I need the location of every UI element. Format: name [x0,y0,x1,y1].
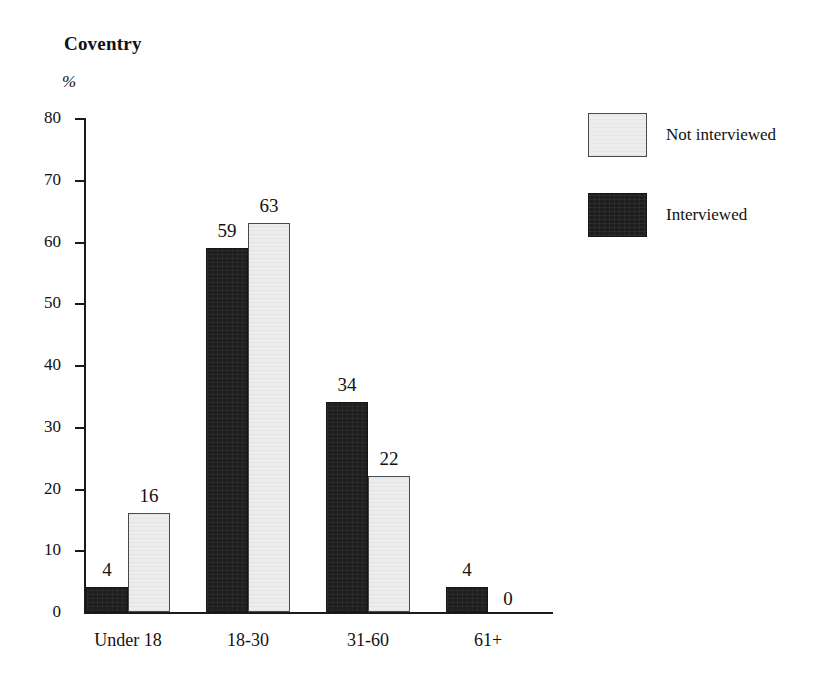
bar-interviewed-31-60[interactable] [326,402,368,612]
y-tick-label-20: 20 [44,478,61,498]
y-tick-70: 70 [75,180,84,182]
bar-not-interviewed-31-60[interactable] [368,476,410,612]
bar-value-interviewed-under-18: 4 [102,559,112,581]
bar-value-not-interviewed-18-30: 63 [260,195,279,217]
y-tick-label-30: 30 [44,416,61,436]
x-axis-line [84,612,553,614]
y-tick-label-50: 50 [44,293,61,313]
bar-value-not-interviewed-under-18: 16 [140,485,159,507]
category-label-31-60: 31-60 [347,630,389,651]
y-tick-label-60: 60 [44,231,61,251]
legend-label-not-interviewed: Not interviewed [666,125,776,145]
y-tick-10: 10 [75,550,84,552]
plot-area: 80 70 60 50 40 30 20 10 0 4 16 59 63 34 … [84,118,553,612]
y-tick-40: 40 [75,365,84,367]
y-tick-50: 50 [75,303,84,305]
page-title: Coventry [64,33,142,55]
y-tick-label-0: 0 [53,602,62,622]
bar-value-interviewed-31-60: 34 [338,374,357,396]
category-label-61-plus: 61+ [474,630,502,651]
legend-swatch-not-interviewed-icon [588,113,647,157]
bar-not-interviewed-18-30[interactable] [248,223,290,612]
category-label-18-30: 18-30 [227,630,269,651]
bar-interviewed-18-30[interactable] [206,248,248,612]
y-tick-60: 60 [75,242,84,244]
bar-value-interviewed-61-plus: 4 [462,559,472,581]
y-tick-30: 30 [75,427,84,429]
bar-value-not-interviewed-61-plus: 0 [503,588,513,610]
y-tick-label-80: 80 [44,108,61,128]
bar-value-interviewed-18-30: 59 [218,220,237,242]
category-label-under-18: Under 18 [94,630,161,651]
y-tick-80: 80 [75,118,84,120]
y-axis-line [84,118,86,612]
bar-interviewed-under-18[interactable] [86,587,128,612]
y-tick-0: 0 [75,612,84,614]
y-tick-label-40: 40 [44,355,61,375]
legend-swatch-interviewed-icon [588,193,647,237]
y-tick-label-70: 70 [44,169,61,189]
legend-label-interviewed: Interviewed [666,205,747,225]
bar-not-interviewed-under-18[interactable] [128,513,170,612]
y-tick-label-10: 10 [44,540,61,560]
bar-value-not-interviewed-31-60: 22 [380,448,399,470]
bar-interviewed-61-plus[interactable] [446,587,488,612]
y-tick-20: 20 [75,489,84,491]
y-axis-unit-label: % [62,72,76,92]
